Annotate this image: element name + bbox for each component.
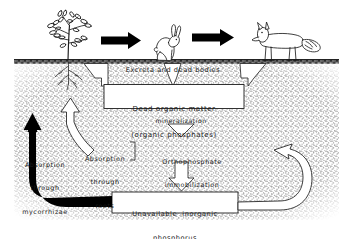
- fox: [252, 22, 320, 60]
- arrow-rabbit-to-fox: [192, 29, 234, 46]
- diagram-canvas: [0, 0, 353, 239]
- dead-organic-matter-box: [104, 85, 244, 109]
- arrow-plant-to-rabbit: [101, 32, 141, 49]
- unavailable-inorganic-phosphorus-box: [112, 192, 238, 213]
- phosphorus-cycle-diagram: Excreta and dead bodies Dead organic mat…: [0, 0, 353, 239]
- rabbit: [154, 25, 180, 61]
